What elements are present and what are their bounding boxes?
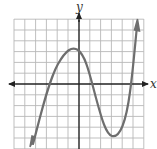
y-axis-label: y [75,0,83,14]
curve-arrow-right-icon [135,19,140,31]
x-axis-label: x [150,77,157,91]
cubic-curve [33,26,137,144]
cubic-graph: x y [0,0,157,149]
axes [9,13,148,149]
